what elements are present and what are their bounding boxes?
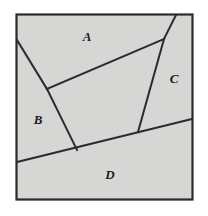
region-label-c: C — [170, 71, 179, 86]
region-label-d: D — [104, 167, 115, 182]
partition-diagram-svg: A B C D — [0, 0, 208, 216]
region-label-a: A — [82, 29, 92, 44]
figure-container: A B C D — [0, 0, 208, 216]
region-label-b: B — [33, 112, 43, 127]
